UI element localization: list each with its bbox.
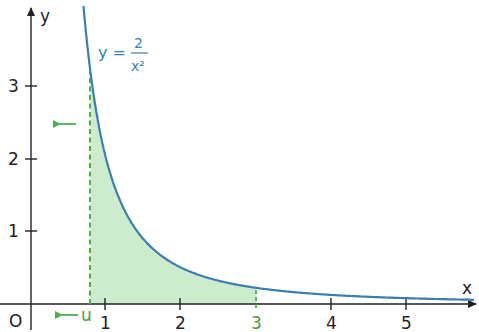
x-tick-label-3: 3 xyxy=(251,313,262,332)
x-tick-label-5: 5 xyxy=(401,313,412,332)
svg-text:2: 2 xyxy=(134,35,143,51)
svg-text:x²: x² xyxy=(131,58,145,74)
function-label: y = 2 x² xyxy=(98,35,148,74)
x-tick-label-2: 2 xyxy=(175,313,186,332)
x-axis-label: x xyxy=(462,278,472,298)
svg-text:y =: y = xyxy=(98,43,126,62)
u-label: u xyxy=(81,305,92,325)
y-tick-label-2: 2 xyxy=(8,149,19,169)
origin-label: O xyxy=(9,311,22,331)
y-axis-label: y xyxy=(40,6,50,26)
y-tick-label-3: 3 xyxy=(8,76,19,96)
integral-diagram: y x O 1 2 3 4 5 1 2 3 u y = 2 x² xyxy=(0,0,479,332)
x-tick-label-1: 1 xyxy=(100,313,111,332)
y-tick-label-1: 1 xyxy=(8,221,19,241)
x-tick-label-4: 4 xyxy=(326,313,337,332)
